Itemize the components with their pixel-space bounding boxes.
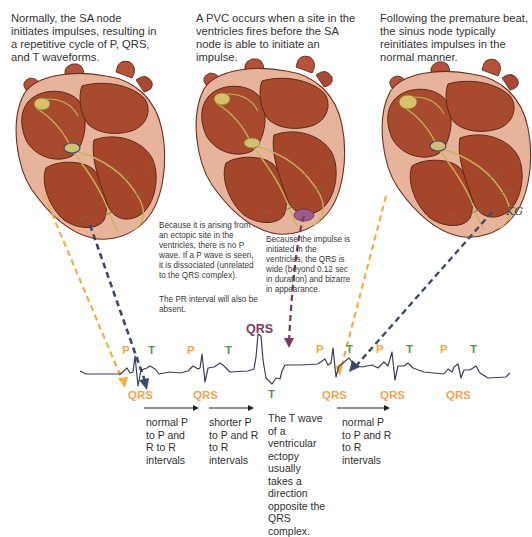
t-wave-label: T [470, 343, 477, 355]
interval-arrow-third [337, 405, 390, 411]
interval-text-third: normal P to P and R to R intervals [342, 416, 394, 466]
note-pr-absent: The PR interval will also be absent. [159, 295, 259, 315]
note-no-p-wave: Because it is arising from an ectopic si… [159, 221, 259, 281]
p-wave-label: P [440, 343, 448, 355]
t-wave-label: T [406, 343, 413, 355]
qrs-label: QRS [380, 389, 405, 401]
sa-node-icon [399, 95, 417, 109]
av-node-icon [430, 141, 446, 151]
heart-illustration-pvc [196, 56, 344, 234]
sa-node-icon [34, 98, 50, 110]
qrs-label: QRS [322, 389, 347, 401]
p-wave-label: P [316, 343, 324, 355]
interval-text-first: normal P to P and R to R intervals [146, 416, 190, 466]
t-wave-label: T [225, 344, 232, 356]
p-wave-label: P [187, 344, 195, 356]
p-wave-label: P [122, 344, 130, 356]
interval-arrow-first [144, 405, 199, 411]
av-node-icon [244, 138, 260, 148]
p-wave-label: P [376, 343, 384, 355]
qrs-label: QRS [193, 389, 218, 401]
qrs-label: QRS [128, 389, 153, 401]
note-wide-qrs: Because the impulse is initiated in the … [266, 235, 352, 295]
t-wave-label: T [148, 344, 155, 356]
interval-arrow-second [209, 405, 254, 411]
qrs-label: QRS [446, 389, 471, 401]
t-wave-label: T [346, 343, 353, 355]
pvc-t-wave-label: T [268, 388, 275, 400]
interval-text-second: shorter P to P and R to R intervals [209, 416, 261, 466]
t-wave-note: The T wave of a ventricular ectopy usual… [268, 412, 326, 537]
pvc-qrs-label: QRS [246, 322, 273, 336]
av-node-icon [64, 143, 80, 153]
heart-illustration-normal [16, 61, 164, 239]
artist-signature: KG [505, 205, 523, 218]
sa-node-icon [214, 93, 230, 105]
av-arrow-normal [90, 225, 149, 390]
